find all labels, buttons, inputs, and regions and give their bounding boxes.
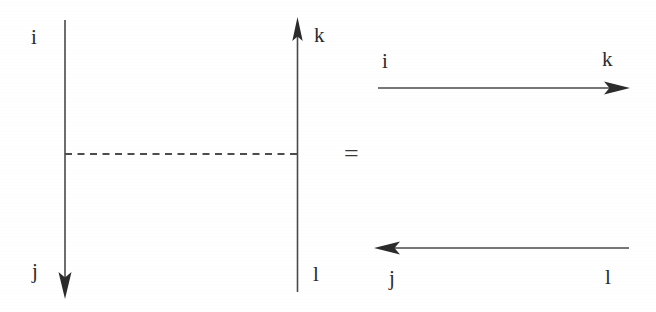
label-right-k: k — [602, 49, 613, 70]
label-right-j: j — [389, 268, 395, 289]
equals-sign: = — [344, 141, 359, 167]
diagram-canvas: i j k l = i k j l — [0, 0, 656, 312]
right-bottom-leftward-arrow-line — [374, 242, 629, 255]
label-left-l: l — [313, 264, 319, 285]
diagram-strokes — [0, 0, 656, 312]
label-left-k: k — [314, 25, 325, 46]
label-right-i: i — [382, 51, 388, 72]
label-left-i: i — [31, 27, 37, 48]
label-right-l: l — [605, 267, 611, 288]
left-downward-arrow-line — [59, 20, 72, 299]
right-top-rightward-arrow-line — [378, 82, 630, 95]
label-left-j: j — [32, 261, 38, 282]
